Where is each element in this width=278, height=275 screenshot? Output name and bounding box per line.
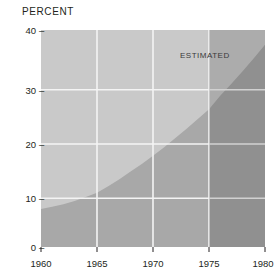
estimated-annotation-label: ESTIMATED (180, 51, 230, 60)
ytick-label-10: 10 (14, 193, 36, 204)
ytick-dash-10: – (39, 193, 44, 204)
chart-plot-svg (0, 0, 278, 275)
x-axis-ticks (41, 247, 265, 252)
xtick-label-1960: 1960 (21, 258, 61, 269)
ytick-dash-40: – (39, 25, 44, 36)
xtick-label-1970: 1970 (133, 258, 173, 269)
chart-figure: PERCENT (0, 0, 278, 275)
ytick-dash-0: – (39, 242, 44, 253)
ytick-label-0: 0 (14, 242, 36, 253)
ytick-dash-20: – (39, 139, 44, 150)
ytick-label-20: 20 (14, 139, 36, 150)
xtick-label-1980: 1980 (243, 258, 278, 269)
estimated-region-overlay (209, 30, 265, 247)
ytick-label-40: 40 (14, 25, 36, 36)
ytick-dash-30: – (39, 85, 44, 96)
xtick-label-1965: 1965 (77, 258, 117, 269)
xtick-label-1975: 1975 (189, 258, 229, 269)
ytick-label-30: 30 (14, 85, 36, 96)
estimated-region (209, 30, 265, 247)
